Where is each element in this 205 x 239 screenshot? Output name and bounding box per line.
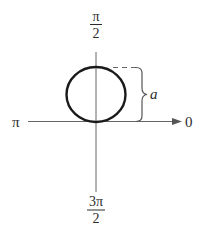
polar-diagram: a π 2 3π 2 π 0 [0,0,205,239]
label-bottom-numerator: 3π [89,194,103,209]
label-a: a [150,86,158,102]
brace-icon [136,68,147,122]
label-bottom-denominator: 2 [93,211,100,226]
label-left-pi: π [12,114,20,130]
arrowhead-icon [172,118,182,125]
label-right-zero: 0 [185,114,193,130]
label-top-numerator: π [92,9,99,24]
label-top-denominator: 2 [93,26,100,41]
